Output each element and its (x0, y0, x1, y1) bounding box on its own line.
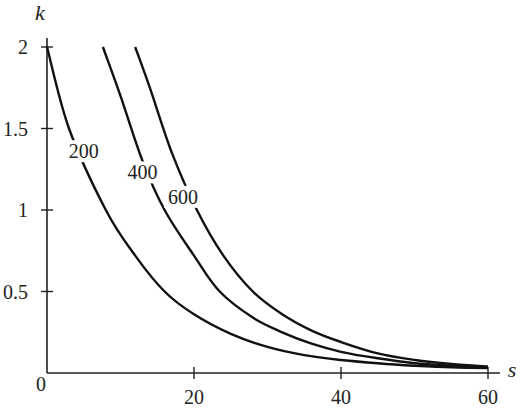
curve-200 (47, 47, 488, 368)
y-tick-label: 2 (18, 36, 28, 58)
x-tick-label: 60 (478, 386, 498, 408)
y-tick-label: 1 (18, 199, 28, 221)
x-axis-title: s (508, 357, 517, 382)
axes: 20406000.511.52ks (3, 0, 516, 408)
x-tick-label: 20 (184, 386, 204, 408)
y-tick-label: 1.5 (3, 118, 28, 140)
y-tick-label: 0.5 (3, 281, 28, 303)
curve-label-400: 400 (128, 161, 158, 183)
y-axis-title: k (35, 0, 46, 25)
curve-label-600: 600 (168, 186, 198, 208)
chart-canvas: 20406000.511.52ks 200400600 (0, 0, 522, 413)
x-tick-label: 40 (331, 386, 351, 408)
curves (47, 47, 488, 368)
curve-400 (103, 47, 488, 367)
origin-label: 0 (36, 373, 46, 395)
curve-label-200: 200 (69, 140, 99, 162)
